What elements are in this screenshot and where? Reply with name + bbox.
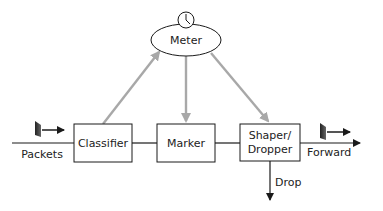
shaper-dropper-node: Shaper/ Dropper: [240, 124, 300, 161]
meter-label: Meter: [170, 34, 202, 47]
forward-label: Forward: [307, 146, 351, 159]
classifier-label: Classifier: [78, 137, 129, 150]
clock-icon: [178, 12, 194, 28]
packet-icon-out: [320, 123, 350, 140]
packets-label: Packets: [21, 148, 63, 161]
drop-label: Drop: [275, 176, 301, 189]
shaper-label-line1: Shaper/: [249, 129, 292, 142]
diagram-canvas: Meter Classifier Marker Shaper/ Dropper …: [0, 0, 383, 211]
marker-node: Marker: [157, 124, 215, 162]
meter-node: Meter: [151, 24, 221, 56]
marker-label: Marker: [167, 137, 205, 150]
shaper-label-line2: Dropper: [248, 143, 293, 156]
meter-arrows: [103, 52, 268, 124]
classifier-node: Classifier: [74, 124, 132, 162]
packet-icon-in: [35, 121, 64, 137]
